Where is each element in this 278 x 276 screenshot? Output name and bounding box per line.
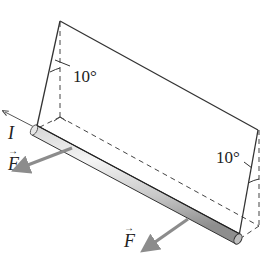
force-arrow-left	[20, 148, 72, 168]
physics-diagram: 10° 10° I → F → F	[0, 0, 278, 276]
force-arrow-right	[148, 219, 188, 247]
current-label: I	[7, 123, 15, 143]
tilted-frame	[37, 21, 258, 236]
force-label-right: → F	[123, 222, 136, 251]
angle-label-right: 10°	[216, 148, 240, 167]
angle-label-top: 10°	[73, 67, 97, 86]
dashed-reference-lines	[40, 22, 259, 238]
svg-text:F: F	[7, 154, 20, 174]
rod	[29, 124, 244, 246]
svg-text:F: F	[123, 231, 136, 251]
force-label-left: → F	[7, 145, 20, 174]
